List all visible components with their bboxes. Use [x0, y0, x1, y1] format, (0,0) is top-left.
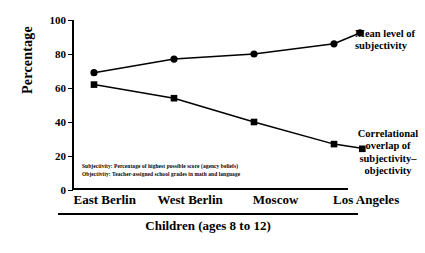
data-point-circle [90, 69, 97, 76]
annotation-correlational-overlap-line4: objectivity [352, 165, 424, 177]
y-axis-tick-label: 40 [55, 116, 66, 128]
x-axis-category-labels: East BerlinWest BerlinMoscowLos Angeles [62, 192, 414, 208]
data-point-square [171, 95, 178, 102]
annotation-correlational-overlap-line2: overlap of [352, 140, 424, 152]
data-point-square [91, 81, 98, 88]
x-axis-category-los-angeles: Los Angeles [318, 192, 414, 208]
y-axis-tick-label: 60 [55, 82, 66, 94]
data-point-circle [250, 50, 257, 57]
y-axis-tick-label: 80 [55, 48, 66, 60]
x-axis-category-west-berlin: West Berlin [147, 192, 232, 208]
y-axis-tick-label: 100 [50, 14, 67, 26]
caption-rule [58, 213, 358, 215]
x-axis-caption: Children (ages 8 to 12) [58, 218, 358, 234]
data-point-circle [170, 56, 177, 63]
annotation-correlational-overlap-line1: Correlational [352, 128, 424, 140]
footnote-subjectivity: Subjectivity: Percentage of highest poss… [82, 163, 240, 171]
annotation-mean-subjectivity: Mean level of subjectivity [355, 28, 415, 53]
footnote-objectivity: Objectivity: Teacher-assigned school gra… [82, 171, 240, 179]
annotation-correlational-overlap: Correlational overlap of subjectivity– o… [352, 128, 424, 178]
annotation-mean-subjectivity-line2: subjectivity [355, 40, 415, 52]
chart-figure: Percentage 020406080100 Subjectivity: Pe… [0, 0, 425, 253]
data-point-square [251, 119, 258, 126]
x-axis-category-moscow: Moscow [233, 192, 318, 208]
series-line [94, 85, 334, 145]
footnote-block: Subjectivity: Percentage of highest poss… [82, 163, 240, 179]
x-axis-category-east-berlin: East Berlin [62, 192, 147, 208]
y-axis-tick-label: 20 [55, 150, 66, 162]
annotation-mean-subjectivity-line1: Mean level of [355, 28, 415, 40]
plot-area: 020406080100 Subjectivity: Percentage of… [72, 20, 348, 190]
data-point-square [331, 141, 338, 148]
data-point-circle [330, 40, 337, 47]
y-axis-title: Percentage [20, 0, 36, 120]
series-line [94, 44, 334, 73]
annotation-correlational-overlap-line3: subjectivity– [352, 153, 424, 165]
